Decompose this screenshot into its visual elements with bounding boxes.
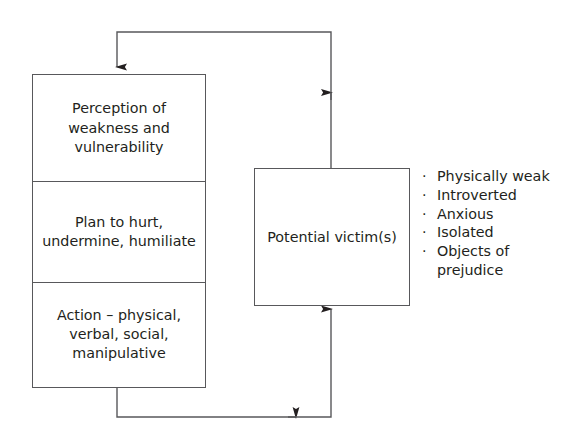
trait-label: Physically weak <box>437 168 550 184</box>
bully-process-stack: Perception of weakness and vulnerability… <box>32 74 206 388</box>
list-item: · Objects of prejudice <box>420 242 570 280</box>
bullet-icon: · <box>422 167 427 186</box>
list-item: · Isolated <box>420 223 570 242</box>
bullet-icon: · <box>422 223 427 242</box>
diagram-canvas: Perception of weakness and vulnerability… <box>0 0 584 441</box>
process-stage-perception: Perception of weakness and vulnerability <box>33 75 205 181</box>
list-item: · Anxious <box>420 205 570 224</box>
list-item: · Introverted <box>420 186 570 205</box>
bullet-icon: · <box>422 242 427 261</box>
victim-traits-list: · Physically weak · Introverted · Anxiou… <box>420 167 570 280</box>
potential-victims-label: Potential victim(s) <box>267 229 397 245</box>
process-stage-plan: Plan to hurt, undermine, humiliate <box>33 181 205 281</box>
trait-label: Introverted <box>437 187 517 203</box>
process-stage-action: Action – physical, verbal, social, manip… <box>33 282 205 387</box>
trait-label: Anxious <box>437 206 494 222</box>
bullet-icon: · <box>422 186 427 205</box>
trait-label: Objects of prejudice <box>437 243 509 278</box>
trait-label: Isolated <box>437 224 494 240</box>
list-item: · Physically weak <box>420 167 570 186</box>
potential-victims-box: Potential victim(s) <box>254 168 410 306</box>
bullet-icon: · <box>422 205 427 224</box>
